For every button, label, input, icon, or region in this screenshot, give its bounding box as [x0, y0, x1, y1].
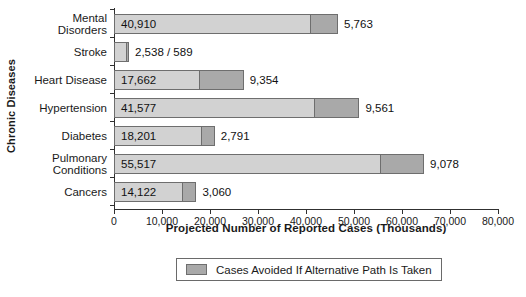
- category-label-7: Cancers: [8, 178, 114, 206]
- bar-segment-cases-avoided: [380, 154, 424, 174]
- category-label-line: Disorders: [58, 24, 107, 37]
- x-axis-tick: [114, 209, 115, 214]
- x-axis-tick: [402, 209, 403, 214]
- stacked-bar: [114, 42, 129, 62]
- stacked-bar: 14,122: [114, 182, 196, 202]
- bar-value-label-avoided: 5,763: [338, 18, 373, 30]
- stacked-bar: 55,517: [114, 154, 424, 174]
- category-label-3: Heart Disease: [8, 66, 114, 94]
- bar-segment-projected-cases: [114, 42, 126, 62]
- y-axis-tick: [110, 9, 115, 10]
- x-axis-tick: [450, 209, 451, 214]
- category-label-5: Diabetes: [8, 122, 114, 150]
- bar-segment-projected-cases: 41,577: [114, 98, 314, 118]
- legend-label-cases-avoided: Cases Avoided If Alternative Path Is Tak…: [216, 264, 432, 276]
- bar-segment-projected-cases: 40,910: [114, 14, 310, 34]
- category-label-line: Stroke: [74, 46, 107, 59]
- bar-value-label-projected: 18,201: [121, 130, 156, 142]
- bar-segment-cases-avoided: [201, 126, 214, 146]
- stacked-bar: 41,577: [114, 98, 359, 118]
- category-label-line: Cancers: [64, 186, 107, 199]
- x-axis-tick: [210, 209, 211, 214]
- category-label-line: Pulmonary: [52, 152, 107, 165]
- category-label-line: Hypertension: [39, 102, 107, 115]
- bar-value-label-projected: 41,577: [121, 102, 156, 114]
- bar-segment-cases-avoided: [182, 182, 197, 202]
- x-axis-title: Projected Number of Reported Cases (Thou…: [114, 222, 498, 234]
- bar-segment-projected-cases: 18,201: [114, 126, 201, 146]
- x-axis-tick: [162, 209, 163, 214]
- category-label-1: MentalDisorders: [8, 10, 114, 38]
- bar-value-label-avoided: 3,060: [196, 186, 231, 198]
- bar-segment-projected-cases: 55,517: [114, 154, 380, 174]
- bar-value-label-avoided: 2,791: [215, 130, 250, 142]
- bar-segment-projected-cases: 17,662: [114, 70, 199, 90]
- category-label-line: Conditions: [53, 164, 107, 177]
- category-label-line: Diabetes: [62, 130, 107, 143]
- bar-segment-projected-cases: 14,122: [114, 182, 182, 202]
- x-axis-tick: [306, 209, 307, 214]
- bar-value-label-projected: 40,910: [121, 18, 156, 30]
- category-label-2: Stroke: [8, 38, 114, 66]
- bar-segment-cases-avoided: [310, 14, 338, 34]
- stacked-bar: 40,910: [114, 14, 338, 34]
- stacked-bar: 18,201: [114, 126, 215, 146]
- bar-value-label-combined: 2,538 / 589: [129, 46, 193, 58]
- category-label-line: Heart Disease: [34, 74, 107, 87]
- bar-value-label-projected: 55,517: [121, 158, 156, 170]
- category-label-6: PulmonaryConditions: [8, 150, 114, 178]
- bar-value-label-avoided: 9,561: [359, 102, 394, 114]
- x-axis-tick: [498, 209, 499, 214]
- bar-value-label-avoided: 9,354: [244, 74, 279, 86]
- bar-segment-cases-avoided: [199, 70, 244, 90]
- x-axis-tick: [354, 209, 355, 214]
- chart-legend: Cases Avoided If Alternative Path Is Tak…: [176, 258, 442, 281]
- bar-value-label-avoided: 9,078: [424, 158, 459, 170]
- bar-segment-cases-avoided: [314, 98, 360, 118]
- legend-swatch-cases-avoided: [186, 264, 207, 275]
- bar-value-label-projected: 14,122: [121, 186, 156, 198]
- x-axis-tick: [258, 209, 259, 214]
- bar-value-label-projected: 17,662: [121, 74, 156, 86]
- category-label-line: Mental: [72, 12, 107, 25]
- stacked-bar: 17,662: [114, 70, 244, 90]
- y-axis-tick: [110, 205, 115, 206]
- category-label-4: Hypertension: [8, 94, 114, 122]
- chart-plot-area: MentalDisorders40,9105,763Stroke2,538 / …: [114, 8, 498, 210]
